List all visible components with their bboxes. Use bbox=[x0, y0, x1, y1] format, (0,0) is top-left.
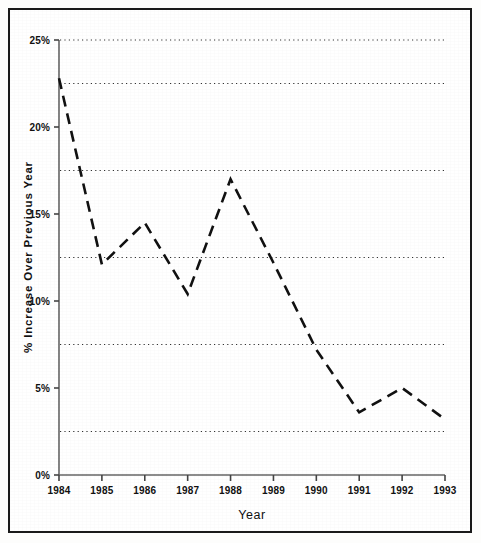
x-tick-label: 1993 bbox=[433, 485, 456, 496]
x-tick-group bbox=[59, 475, 445, 481]
line-chart: 0%5%10%15%20%25% 19841985198619871988198… bbox=[10, 10, 470, 531]
data-series-line bbox=[59, 78, 445, 419]
x-axis-title: Year bbox=[238, 508, 266, 522]
chart-frame-border: 0%5%10%15%20%25% 19841985198619871988198… bbox=[8, 8, 472, 533]
y-axis-title: % Increase Over Previous Year bbox=[22, 161, 34, 353]
y-tick-label: 5% bbox=[35, 383, 50, 394]
x-tick-label: 1991 bbox=[348, 485, 371, 496]
x-tick-label: 1988 bbox=[219, 485, 242, 496]
y-tick-label: 25% bbox=[29, 35, 50, 46]
x-tick-label: 1984 bbox=[47, 485, 70, 496]
y-tick-label: 20% bbox=[29, 122, 50, 133]
x-tick-label: 1992 bbox=[391, 485, 414, 496]
x-tick-labels: 1984198519861987198819891990199119921993 bbox=[47, 485, 456, 496]
x-tick-label: 1987 bbox=[176, 485, 199, 496]
x-tick-label: 1989 bbox=[262, 485, 285, 496]
figure-canvas: 0%5%10%15%20%25% 19841985198619871988198… bbox=[0, 0, 481, 543]
x-tick-label: 1985 bbox=[90, 485, 113, 496]
y-tick-label: 0% bbox=[35, 470, 50, 481]
x-tick-label: 1986 bbox=[133, 485, 156, 496]
x-tick-label: 1990 bbox=[305, 485, 328, 496]
gridlines-group bbox=[60, 40, 445, 432]
